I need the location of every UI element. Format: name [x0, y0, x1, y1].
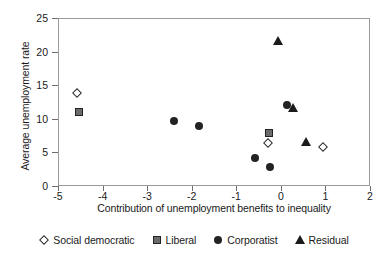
circle-filled-icon: [213, 235, 223, 245]
x-axis-tick-label: 1: [310, 191, 340, 202]
diamond-open-icon: [39, 235, 49, 245]
y-axis-tick: [52, 119, 58, 120]
data-point-circle-filled: [251, 154, 259, 162]
data-point-square-filled: [75, 108, 83, 116]
data-point-square-filled: [265, 129, 273, 137]
data-point-triangle-filled: [288, 103, 298, 112]
data-point-circle-filled: [266, 163, 274, 171]
scatter-chart: Average unemployment rate 0510152025 -5-…: [0, 0, 388, 259]
square-filled-icon: [152, 235, 162, 245]
y-axis-tick-label: 25: [20, 13, 48, 23]
x-axis-tick-label: -4: [88, 191, 118, 202]
y-axis-tick-label: 0: [20, 181, 48, 191]
y-axis-tick-label: 10: [20, 114, 48, 124]
x-axis-title: Contribution of unemployment benefits to…: [58, 202, 370, 214]
data-point-triangle-filled: [273, 36, 283, 45]
legend-label: Social democratic: [53, 234, 134, 246]
y-axis-tick-label: 15: [20, 80, 48, 90]
y-axis-tick: [52, 152, 58, 153]
legend-entry: Liberal: [152, 234, 197, 246]
x-axis-tick-label: -1: [221, 191, 251, 202]
data-point-triangle-filled: [301, 137, 311, 146]
x-axis-tick-label: -3: [132, 191, 162, 202]
x-axis-tick-label: 0: [266, 191, 296, 202]
y-axis-tick-label: 20: [20, 47, 48, 57]
x-axis-tick-label: 2: [355, 191, 385, 202]
legend-entry: Corporatist: [213, 234, 277, 246]
y-axis-tick-label: 5: [20, 147, 48, 157]
y-axis-tick: [52, 85, 58, 86]
chart-legend: Social democraticLiberalCorporatistResid…: [0, 234, 388, 246]
legend-label: Corporatist: [227, 234, 277, 246]
legend-entry: Social democratic: [39, 234, 134, 246]
data-point-diamond-open: [72, 88, 82, 98]
legend-label: Residual: [309, 234, 349, 246]
data-point-circle-filled: [195, 122, 203, 130]
y-axis-tick: [52, 18, 58, 19]
data-point-diamond-open: [318, 142, 328, 152]
triangle-filled-icon: [295, 235, 305, 245]
data-point-diamond-open: [264, 138, 274, 148]
x-axis-tick-label: -2: [177, 191, 207, 202]
legend-entry: Residual: [295, 234, 349, 246]
data-point-circle-filled: [170, 117, 178, 125]
legend-label: Liberal: [166, 234, 197, 246]
plot-area: [58, 18, 370, 186]
y-axis-tick: [52, 52, 58, 53]
x-axis-tick-label: -5: [43, 191, 73, 202]
